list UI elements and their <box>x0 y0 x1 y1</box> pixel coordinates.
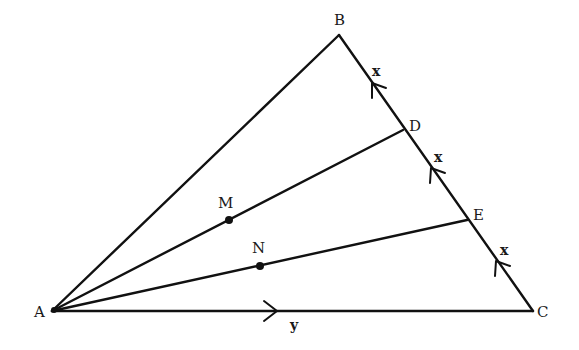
vertex-label-A: A <box>33 303 45 321</box>
vertex-label-E: E <box>473 206 484 224</box>
vector-label-x-BD: x <box>372 63 381 79</box>
vector-label-x-DE: x <box>434 149 443 165</box>
vertex-label-B: B <box>334 11 345 29</box>
vertex-label-C: C <box>537 303 548 321</box>
segment-AB <box>52 35 339 311</box>
segment-BC <box>339 35 533 311</box>
vector-label-x-EC: x <box>500 242 509 258</box>
point-M-dot <box>225 216 233 224</box>
vertex-label-D: D <box>409 117 421 135</box>
triangle-diagram: A B C D E M N x x x y <box>0 0 579 350</box>
vertex-A-dot <box>51 307 57 313</box>
point-label-M: M <box>218 194 233 212</box>
point-label-N: N <box>252 239 265 257</box>
vector-label-y-AC: y <box>289 317 299 333</box>
point-N-dot <box>256 262 264 270</box>
